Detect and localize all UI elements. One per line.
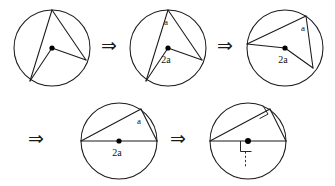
figure-root: a 2a a 2a a 2a — [0, 0, 335, 186]
step-2-diagram: a 2a — [130, 10, 206, 86]
geometry-figure-canvas: a 2a a 2a a 2a — [0, 0, 335, 186]
step-1-diagram — [14, 10, 90, 86]
step-3-diagram: a 2a — [247, 10, 323, 86]
center-angle-label-step2: 2a — [161, 54, 171, 65]
arrow-row-break: ⇒ — [28, 129, 44, 148]
arrow-step2-to-step3: ⇒ — [217, 36, 233, 55]
center-angle-label-step4: 2a — [112, 147, 122, 158]
center-dot-step3 — [282, 45, 287, 50]
center-dot-step1 — [49, 45, 54, 50]
arrow-step1-to-step2: ⇒ — [101, 36, 117, 55]
center-dot-step2 — [165, 45, 170, 50]
center-angle-label-step3: 2a — [278, 54, 288, 65]
arrow-step4-to-step5: ⇒ — [170, 129, 186, 148]
apex-angle-label-step4: a — [137, 116, 141, 126]
apex-angle-label-step3: a — [301, 23, 305, 33]
step-4-diagram: a 2a — [81, 103, 157, 179]
apex-angle-label-step2: a — [164, 17, 168, 27]
center-dot-step5 — [245, 138, 251, 144]
step-5-diagram — [210, 103, 286, 179]
center-dot-step4 — [116, 138, 121, 143]
